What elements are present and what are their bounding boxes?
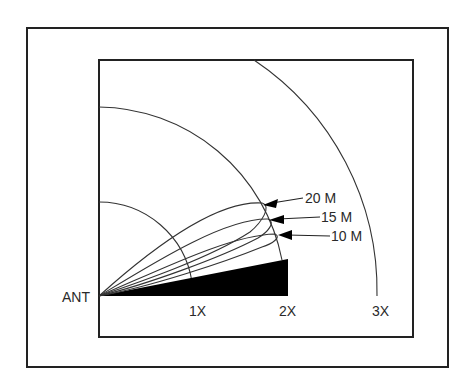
range-arc-1x [99, 202, 192, 282]
label-2x: 2X [279, 303, 297, 319]
label-ant: ANT [62, 289, 90, 305]
arrow-head-10m [278, 230, 292, 240]
arrow-line-15m [278, 217, 320, 219]
label-15m: 15 M [321, 209, 352, 225]
label-10m: 10 M [331, 228, 362, 244]
arrow-head-20m [263, 199, 278, 208]
arrow-line-10m [287, 235, 330, 236]
label-20m: 20 M [305, 190, 336, 206]
range-arc-2x [99, 107, 282, 260]
range-arc-3x [254, 60, 377, 296]
label-1x: 1X [189, 303, 207, 319]
antenna-pattern-diagram: 20 M 15 M 10 M ANT 1X 2X 3X [0, 0, 470, 380]
label-3x: 3X [372, 303, 390, 319]
